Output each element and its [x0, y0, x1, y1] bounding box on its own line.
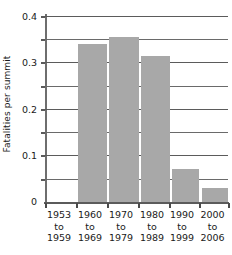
x-tick-label-line3: 1959 — [43, 232, 75, 244]
y-tick-label-0: 0 — [11, 197, 37, 207]
x-tickmark-2 — [107, 203, 109, 208]
x-tick-label-line1: 1980 — [136, 209, 168, 221]
bar-1990-1999 — [172, 169, 199, 202]
bar-1970-1979 — [109, 37, 139, 202]
bar-chart: Fatalities per summit 0.4 0.3 0.2 0.1 0 — [0, 0, 232, 255]
x-tick-label-1970-1979: 1970 to 1979 — [105, 209, 137, 244]
x-tickmark-5 — [199, 203, 201, 208]
x-tickmark-4 — [169, 203, 171, 208]
x-tickmark-6 — [228, 203, 230, 208]
x-tick-label-line2: to — [43, 221, 75, 233]
x-tick-label-line2: to — [166, 221, 198, 233]
x-tickmark-3 — [138, 203, 140, 208]
x-tick-label-line1: 1970 — [105, 209, 137, 221]
x-tick-label-1953-1959: 1953 to 1959 — [43, 209, 75, 244]
x-tick-label-line3: 1969 — [74, 232, 106, 244]
x-tickmark-0 — [45, 203, 47, 208]
x-tick-label-line1: 2000 — [196, 209, 229, 221]
x-tick-label-line3: 1989 — [136, 232, 168, 244]
x-tick-label-line2: to — [196, 221, 229, 233]
bar-1980-1989 — [141, 56, 170, 202]
x-tick-label-line1: 1960 — [74, 209, 106, 221]
x-tick-label-line3: 1999 — [166, 232, 198, 244]
x-tick-label-line2: to — [136, 221, 168, 233]
y-tick-label-0.2: 0.2 — [11, 105, 37, 115]
x-tick-label-line1: 1953 — [43, 209, 75, 221]
y-axis-title-text: Fatalities per summit — [2, 56, 12, 153]
x-tick-label-line2: to — [74, 221, 106, 233]
x-tick-label-line2: to — [105, 221, 137, 233]
x-tick-label-line1: 1990 — [166, 209, 198, 221]
gridline-0.4 — [45, 16, 228, 17]
bar-2000-2006 — [202, 188, 228, 202]
x-tick-label-1980-1989: 1980 to 1989 — [136, 209, 168, 244]
y-axis-title: Fatalities per summit — [0, 0, 14, 208]
x-axis-line — [44, 202, 229, 204]
bar-1960-1969 — [78, 44, 107, 202]
x-tick-label-1990-1999: 1990 to 1999 — [166, 209, 198, 244]
x-tickmark-1 — [76, 203, 78, 208]
y-tick-label-0.1: 0.1 — [11, 151, 37, 161]
x-tick-label-line3: 2006 — [196, 232, 229, 244]
y-tick-label-0.3: 0.3 — [11, 58, 37, 68]
x-tick-label-line3: 1979 — [105, 232, 137, 244]
y-tick-label-0.4: 0.4 — [11, 12, 37, 22]
plot-area — [45, 16, 228, 202]
x-tick-label-2000-2006: 2000 to 2006 — [196, 209, 229, 244]
x-tick-label-1960-1969: 1960 to 1969 — [74, 209, 106, 244]
